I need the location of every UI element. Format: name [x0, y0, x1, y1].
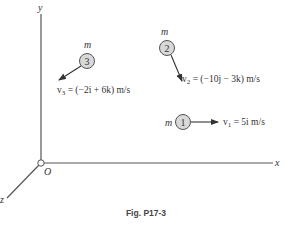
particle-1-mass-label: m: [165, 117, 172, 128]
velocity-3-expression: = (−2i + 6k) m/s: [65, 85, 130, 96]
x-axis-label: x: [274, 157, 280, 168]
figure-canvas: y x z O m 3 v3 = (−2i + 6k) m/s m 2 v2 =…: [0, 0, 293, 228]
velocity-1-label: v1 = 5i m/s: [223, 117, 265, 129]
velocity-1-expression: = 5i m/s: [231, 117, 265, 127]
particle-2-mass-label: m: [161, 26, 168, 37]
velocity-3-arrow: [59, 66, 81, 80]
z-axis: [7, 165, 39, 198]
particle-3-mass-label: m: [84, 39, 91, 50]
particle-2: m 2 v2 = (−10j − 3k) m/s: [160, 26, 261, 86]
particle-3: m 3 v3 = (−2i + 6k) m/s: [57, 39, 130, 97]
particle-3-number: 3: [85, 56, 90, 67]
y-axis-label: y: [37, 2, 43, 13]
z-axis-label: z: [0, 194, 4, 205]
velocity-2-arrow: [171, 55, 182, 81]
velocity-2-label: v2 = (−10j − 3k) m/s: [182, 74, 260, 86]
particle-2-number: 2: [165, 43, 170, 54]
particle-1: m 1 v1 = 5i m/s: [165, 115, 265, 130]
figure-caption: Fig. P17-3: [126, 208, 166, 218]
origin-label: O: [44, 166, 51, 177]
particle-1-number: 1: [181, 117, 186, 128]
velocity-3-label: v3 = (−2i + 6k) m/s: [57, 85, 130, 97]
axes: y x z O: [0, 2, 280, 205]
velocity-2-expression: = (−10j − 3k) m/s: [190, 74, 260, 85]
